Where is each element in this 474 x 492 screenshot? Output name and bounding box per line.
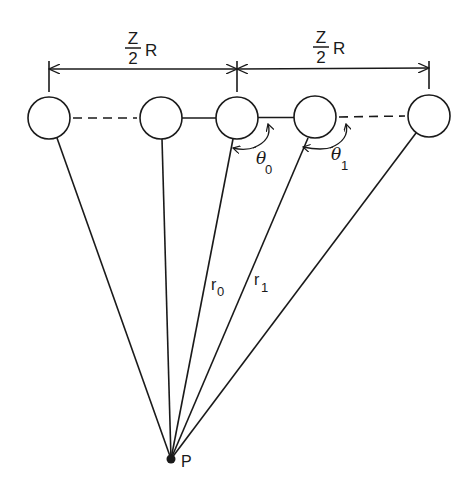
right-span-numerator: Z	[316, 28, 326, 47]
theta0-arc-start	[233, 147, 256, 149]
r0-sub: 0	[217, 284, 224, 299]
r1-main: r	[254, 271, 260, 288]
left-span-numerator: Z	[128, 29, 138, 48]
right-span-arrow	[237, 69, 333, 70]
ray-atom-1	[57, 138, 171, 459]
theta0-label: θ 0	[256, 148, 272, 177]
point-p-dot	[167, 455, 176, 464]
r0-label: r 0	[211, 276, 224, 299]
atom-circle	[408, 95, 450, 137]
theta1-label: θ 1	[331, 144, 348, 173]
r1-label: r 1	[254, 271, 268, 295]
theta0-sub: 0	[265, 162, 272, 177]
right-span-label: Z 2 R	[313, 28, 345, 67]
left-span-denominator: 2	[128, 49, 137, 68]
ray-atom-2	[162, 139, 171, 459]
r1-sub: 1	[261, 280, 268, 295]
left-span-suffix: R	[145, 41, 157, 60]
atom-circle	[294, 96, 336, 138]
atom-chain-diagram: Z 2 R Z 2 R θ 0 θ 1 r 0 r 1 P	[0, 0, 474, 492]
ray-atom-5	[171, 133, 416, 459]
ray-r0	[171, 139, 233, 459]
right-span-denominator: 2	[316, 48, 325, 67]
left-span-label: Z 2 R	[125, 29, 157, 68]
diagram-canvas: Z 2 R Z 2 R θ 0 θ 1 r 0 r 1 P	[0, 0, 474, 492]
dashed-bond	[339, 116, 405, 117]
theta1-sub: 1	[341, 158, 348, 173]
theta1-arc-start	[303, 147, 333, 149]
atom-circle	[140, 97, 182, 139]
atom-circle	[28, 97, 70, 139]
point-p-label: P	[181, 453, 192, 470]
right-span-suffix: R	[333, 39, 345, 58]
right-span-arrow	[333, 68, 429, 69]
atom-circle	[216, 97, 258, 139]
theta1-main: θ	[331, 144, 341, 164]
ray-r1	[171, 138, 308, 459]
